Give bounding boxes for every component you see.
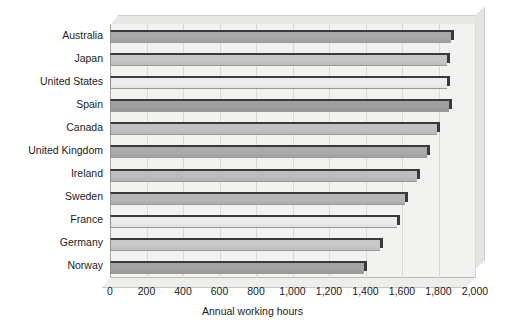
x-tick-label: 800 [247, 285, 265, 297]
category-label: Ireland [0, 167, 103, 179]
category-label: Canada [0, 121, 103, 133]
bar-japan [110, 53, 447, 66]
gridline-2000 [475, 24, 476, 278]
bar-sweden [110, 192, 405, 205]
plot-right-edge [475, 7, 485, 269]
category-label: Germany [0, 236, 103, 248]
bar-row [110, 70, 475, 93]
x-tick-label: 200 [138, 285, 156, 297]
bar-row [110, 209, 475, 232]
bar-united-kingdom [110, 145, 427, 158]
bars-layer [110, 24, 475, 278]
bar-row [110, 139, 475, 162]
bar-chart-figure: AustraliaJapanUnited StatesSpainCanadaUn… [0, 0, 505, 330]
category-label: Japan [0, 52, 103, 64]
bar-united-states [110, 76, 447, 89]
bar-germany [110, 238, 380, 251]
category-label: United Kingdom [0, 144, 103, 156]
category-axis-labels: AustraliaJapanUnited StatesSpainCanadaUn… [0, 24, 103, 278]
x-tick-label: 1,400 [352, 285, 378, 297]
value-axis-tick-labels: 02004006008001,0001,2001,4001,6001,8002,… [0, 285, 505, 301]
x-tick-label: 1,000 [279, 285, 305, 297]
bar-row [110, 116, 475, 139]
x-tick-label: 1,200 [316, 285, 342, 297]
category-label: Australia [0, 29, 103, 41]
bar-row [110, 93, 475, 116]
bar-france [110, 215, 397, 228]
category-label: Spain [0, 98, 103, 110]
x-tick-label: 600 [211, 285, 229, 297]
bar-ireland [110, 169, 417, 182]
bar-row [110, 47, 475, 70]
category-label: France [0, 213, 103, 225]
bar-row [110, 186, 475, 209]
bar-row [110, 232, 475, 255]
category-label: Sweden [0, 190, 103, 202]
bar-australia [110, 30, 451, 43]
bar-canada [110, 122, 437, 135]
category-label: Norway [0, 259, 103, 271]
bar-norway [110, 261, 364, 274]
x-tick-label: 400 [174, 285, 192, 297]
bar-row [110, 163, 475, 186]
x-tick-label: 1,600 [389, 285, 415, 297]
plot-area [110, 24, 475, 278]
x-tick-label: 0 [107, 285, 113, 297]
bar-row [110, 24, 475, 47]
bar-row [110, 255, 475, 278]
x-axis-title: Annual working hours [0, 305, 505, 317]
category-label: United States [0, 75, 103, 87]
x-tick-label: 2,000 [462, 285, 488, 297]
bar-spain [110, 99, 449, 112]
x-tick-label: 1,800 [425, 285, 451, 297]
